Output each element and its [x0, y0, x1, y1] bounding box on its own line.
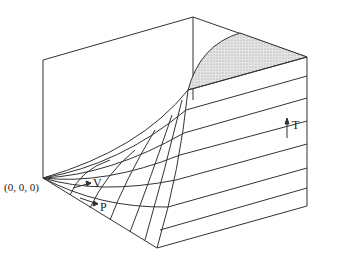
pvt-diagram: V P T (0, 0, 0): [0, 0, 344, 261]
v-axis-label: V: [93, 176, 102, 191]
origin-label: (0, 0, 0): [4, 181, 39, 193]
p-axis-label: P: [100, 200, 107, 215]
bottom-right-edge: [157, 206, 307, 248]
back-left-edge: [43, 17, 307, 178]
t-axis-label: T: [292, 118, 299, 133]
